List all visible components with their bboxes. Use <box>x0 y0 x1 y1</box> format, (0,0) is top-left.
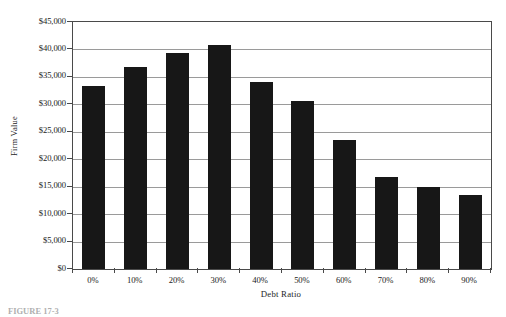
x-axis-tick-mark <box>323 268 324 273</box>
x-axis-tick-label: 30% <box>196 275 240 285</box>
y-axis-tick-mark <box>67 268 72 269</box>
bar <box>375 177 398 269</box>
y-axis-tick-label: $30,000 <box>39 98 66 108</box>
x-axis-tick-label: 50% <box>280 275 324 285</box>
y-axis-tick-mark <box>67 103 72 104</box>
bar <box>459 195 482 269</box>
x-axis-tick-label: 40% <box>238 275 282 285</box>
bar <box>124 67 147 269</box>
x-axis-tick-mark <box>365 268 366 273</box>
bar-series <box>73 22 491 269</box>
y-axis-tick-label: $0 <box>58 263 66 273</box>
y-axis-tick-mark <box>67 131 72 132</box>
x-axis-title: Debt Ratio <box>72 289 490 299</box>
y-axis-tick-mark <box>67 241 72 242</box>
figure-caption: FIGURE 17-3 <box>8 306 368 316</box>
x-axis-tick-label: 0% <box>71 275 115 285</box>
x-axis-tick-mark <box>239 268 240 273</box>
y-axis-tick-label: $10,000 <box>39 208 66 218</box>
x-axis-tick-mark <box>72 268 73 273</box>
x-axis-tick-mark <box>448 268 449 273</box>
x-axis-tick-label: 60% <box>322 275 366 285</box>
figure-caption-label: FIGURE 17-3 <box>8 306 59 316</box>
y-axis-tick-mark <box>67 21 72 22</box>
x-axis-tick-label: 90% <box>447 275 491 285</box>
x-axis-tick-mark <box>281 268 282 273</box>
figure-bar-chart-firm-value-vs-debt-ratio: Firm Value $0$5,000$10,000$15,000$20,000… <box>0 0 506 317</box>
bar <box>82 86 105 269</box>
plot-area <box>72 21 492 270</box>
bar <box>417 187 440 269</box>
y-axis-tick-mark <box>67 76 72 77</box>
x-axis-tick-mark <box>490 268 491 273</box>
y-axis-tick-mark <box>67 213 72 214</box>
bar <box>333 140 356 269</box>
y-axis-tick-label: $40,000 <box>39 43 66 53</box>
y-axis-tick-label: $20,000 <box>39 153 66 163</box>
y-axis-tick-label: $45,000 <box>39 16 66 26</box>
y-axis-tick-labels: $0$5,000$10,000$15,000$20,000$25,000$30,… <box>0 0 70 290</box>
bar <box>166 53 189 269</box>
x-axis-tick-label: 70% <box>364 275 408 285</box>
y-axis-tick-label: $35,000 <box>39 70 66 80</box>
y-axis-tick-mark <box>67 158 72 159</box>
x-axis-tick-mark <box>406 268 407 273</box>
x-axis-tick-label: 20% <box>155 275 199 285</box>
y-axis-tick-mark <box>67 186 72 187</box>
y-axis-tick-label: $15,000 <box>39 180 66 190</box>
y-axis-tick-mark <box>67 48 72 49</box>
x-axis-ticks <box>72 268 492 274</box>
x-axis-tick-mark <box>114 268 115 273</box>
bar <box>208 45 231 270</box>
x-axis-tick-labels: 0%10%20%30%40%50%60%70%80%90% <box>72 275 492 289</box>
x-axis-tick-label: 80% <box>405 275 449 285</box>
x-axis-tick-label: 10% <box>113 275 157 285</box>
bar <box>250 82 273 269</box>
bar <box>291 101 314 270</box>
y-axis-tick-label: $5,000 <box>43 235 66 245</box>
y-axis-tick-label: $25,000 <box>39 125 66 135</box>
x-axis-tick-mark <box>156 268 157 273</box>
x-axis-tick-mark <box>197 268 198 273</box>
